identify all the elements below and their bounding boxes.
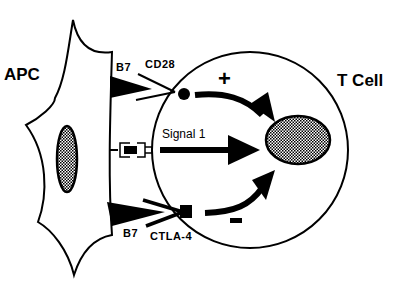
- apc-nucleus: [57, 126, 77, 192]
- cd28-label: CD28: [145, 59, 175, 70]
- b7-bottom-label: B7: [123, 228, 138, 239]
- minus-sign: [230, 218, 242, 223]
- tcr-bracket: [145, 147, 152, 153]
- signal1-arrow-head: [228, 135, 260, 165]
- b7-top-triangle: [110, 76, 152, 98]
- plus-sign-label: +: [218, 68, 231, 90]
- minus-arrow-shaft: [205, 188, 262, 213]
- apc-label: APC: [4, 66, 40, 83]
- tcell-nucleus: [266, 116, 330, 164]
- tcell-label: T Cell: [337, 72, 383, 89]
- signal1-arrow-shaft: [160, 147, 230, 153]
- signal1-label: Signal 1: [162, 128, 205, 140]
- diagram-canvas: [0, 0, 408, 291]
- ctla4-receptor-block: [180, 205, 192, 218]
- peptide-block: [124, 146, 137, 154]
- b7-top-label: B7: [116, 62, 131, 73]
- ctla4-label: CTLA-4: [150, 231, 192, 242]
- cd28-receptor-dot: [178, 88, 190, 100]
